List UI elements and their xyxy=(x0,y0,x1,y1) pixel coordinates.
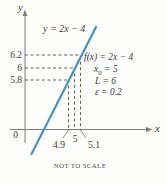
annotation-fx: f(x) = 2x − 4 xyxy=(84,52,133,62)
annotation-L: L = 6 xyxy=(95,76,116,86)
x-tick-5-1: 5.1 xyxy=(80,140,108,150)
y-tick-6: 6 xyxy=(0,63,22,73)
annotation-epsilon: ε = 0.2 xyxy=(95,87,122,97)
y-tick-6-2: 6.2 xyxy=(0,50,22,60)
x-axis-arrow-icon xyxy=(146,127,153,132)
y-axis-arrow-icon xyxy=(23,10,28,17)
x-axis-label: x xyxy=(155,122,160,134)
curve-equation-label: y = 2x − 4 xyxy=(43,23,85,34)
annotation-x0-value: = 5 xyxy=(102,64,118,74)
y-tick-5-8: 5.8 xyxy=(0,75,22,85)
not-to-scale-note: NOT TO SCALE xyxy=(30,162,130,169)
epsilon-delta-graph-figure: y x 0 y = 2x − 4 6.2 6 5.8 4.9 5 5.1 f(x… xyxy=(0,0,167,184)
origin-label: 0 xyxy=(6,130,18,140)
y-axis-label: y xyxy=(18,1,23,13)
